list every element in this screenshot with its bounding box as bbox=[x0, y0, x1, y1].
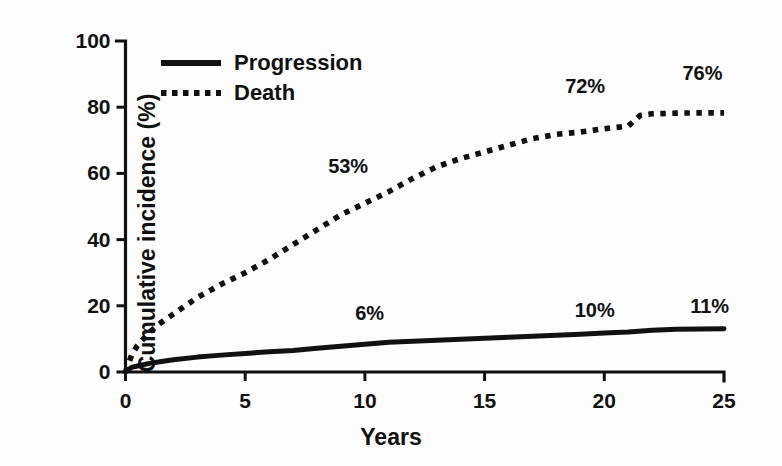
x-tick-label: 10 bbox=[353, 389, 376, 413]
data-point-label: 10% bbox=[575, 299, 615, 322]
y-tick-label: 40 bbox=[55, 228, 111, 252]
y-tick-label: 60 bbox=[55, 161, 111, 185]
plot-area bbox=[0, 0, 782, 466]
y-tick-label: 0 bbox=[55, 360, 111, 384]
data-series bbox=[126, 113, 725, 372]
y-tick-label: 100 bbox=[55, 29, 111, 53]
y-axis-title-text: Cumulative incidence (%) bbox=[134, 94, 161, 373]
x-tick-label: 20 bbox=[593, 389, 616, 413]
x-tick-label: 15 bbox=[473, 389, 496, 413]
y-tick-label: 80 bbox=[55, 95, 111, 119]
legend-key-solid-line-icon bbox=[160, 52, 222, 74]
x-tick-label: 0 bbox=[120, 389, 132, 413]
x-axis-title: Years bbox=[360, 424, 421, 451]
data-point-label: 11% bbox=[690, 295, 729, 318]
x-tick-label: 25 bbox=[712, 389, 735, 413]
data-point-label: 76% bbox=[682, 62, 722, 85]
data-point-label: 6% bbox=[355, 302, 384, 325]
series-line-progression bbox=[126, 329, 725, 372]
legend-item-progression: Progression bbox=[160, 48, 362, 78]
chart-legend: Progression Death bbox=[160, 48, 362, 108]
legend-label-death: Death bbox=[234, 80, 295, 106]
legend-label-progression: Progression bbox=[234, 50, 362, 76]
legend-item-death: Death bbox=[160, 78, 362, 108]
y-tick-label: 20 bbox=[55, 294, 111, 318]
y-axis-title: Cumulative incidence (%) bbox=[134, 94, 161, 373]
y-axis-line bbox=[117, 41, 126, 372]
data-point-label: 72% bbox=[565, 75, 605, 98]
data-point-label: 53% bbox=[328, 155, 368, 178]
cumulative-incidence-chart: 020406080100 0510152025 53%72%76%6%10%11… bbox=[0, 0, 782, 466]
x-axis-line bbox=[126, 372, 725, 381]
x-tick-label: 5 bbox=[239, 389, 251, 413]
legend-key-dotted-line-icon bbox=[160, 82, 222, 104]
